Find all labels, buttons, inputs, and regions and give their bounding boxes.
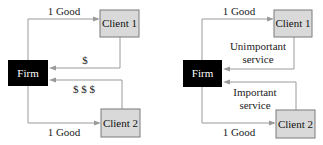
arrowhead-icon [93,17,100,22]
diagram-left: Client 1 Firm Client 2 1 Good 1 Good $ $… [8,5,140,138]
top-flow-label: 1 Good [223,5,256,17]
bottom-flow-label: 1 Good [223,126,256,138]
arrowhead-icon [49,78,56,83]
arrowhead-icon [269,121,276,126]
bottom-flow-label: 1 Good [48,126,81,138]
client1-label: Client 1 [102,17,137,29]
arrowhead-icon [223,80,230,85]
top-flow-label: 1 Good [48,5,81,17]
client2-return-label-line2: service [239,99,270,111]
arrowhead-icon [94,121,101,126]
client1-return-label-line2: service [242,53,273,65]
client1-return-label: $ [82,54,88,66]
client2-return-label: $ $ $ [73,83,96,95]
arrowhead-icon [49,66,56,71]
diagram-canvas: Client 1 Firm Client 2 1 Good 1 Good $ $… [0,0,323,145]
arrowhead-icon [267,17,274,22]
client1-label: Client 1 [275,17,310,29]
client2-label: Client 2 [103,117,138,129]
arrowhead-icon [223,67,230,72]
firm-label: Firm [192,67,214,79]
client2-return-label-line1: Important [233,86,276,98]
firm-label: Firm [17,67,39,79]
client2-label: Client 2 [278,118,313,130]
client1-return-label-line1: Unimportant [230,40,286,52]
diagram-right: Client 1 Firm Client 2 1 Good 1 Good Uni… [183,5,315,138]
